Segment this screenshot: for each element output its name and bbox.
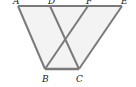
label-C: C <box>76 74 83 84</box>
label-E: E <box>120 0 128 6</box>
label-F: F <box>85 0 93 6</box>
label-A: A <box>12 0 20 6</box>
trapezoid-fill <box>18 6 122 69</box>
label-D: D <box>47 0 55 6</box>
label-B: B <box>41 74 49 84</box>
geometry-diagram: A D F E B C <box>0 0 136 87</box>
